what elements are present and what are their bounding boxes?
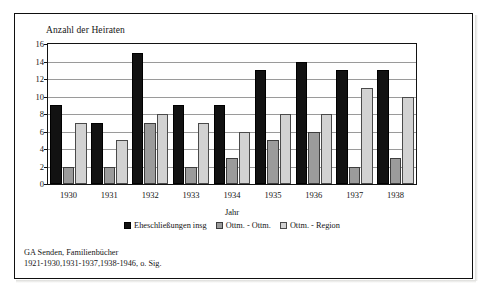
footnote-line-2: 1921-1930,1931-1937,1938-1946, o. Sig. <box>24 259 162 270</box>
bar-group <box>252 44 293 184</box>
bar <box>377 70 389 184</box>
bar-group <box>334 44 375 184</box>
bar <box>226 158 238 184</box>
legend-swatch-icon <box>216 222 223 229</box>
bar <box>157 114 169 184</box>
bar <box>267 140 279 184</box>
bar-series-container <box>48 44 416 184</box>
bar <box>144 123 156 184</box>
bar <box>116 140 128 184</box>
legend-item[interactable]: Eheschließungen insg <box>124 221 207 230</box>
bar <box>402 97 414 185</box>
bar <box>361 88 373 184</box>
source-footnote: GA Senden, Familienbücher 1921-1930,1931… <box>24 248 162 270</box>
bar-group <box>89 44 130 184</box>
legend-item[interactable]: Ottm. - Ottm. <box>216 221 271 230</box>
legend-swatch-icon <box>124 222 131 229</box>
y-axis-tick-label: 14 <box>22 57 44 66</box>
y-axis-tick-label: 2 <box>22 162 44 171</box>
x-axis-tick-label: 1936 <box>305 190 322 200</box>
legend-label: Ottm. - Ottm. <box>226 221 271 230</box>
bar <box>280 114 292 184</box>
bar-group <box>48 44 89 184</box>
x-axis-tick-label: 1931 <box>101 190 118 200</box>
x-axis-title: Jahr <box>47 207 417 217</box>
x-axis-tick-label: 1933 <box>183 190 200 200</box>
footnote-line-1: GA Senden, Familienbücher <box>24 248 162 259</box>
x-axis-tick-labels: 193019311932193319341935193619371938 <box>48 190 416 202</box>
legend-swatch-icon <box>280 222 287 229</box>
bar <box>349 167 361 185</box>
bar <box>214 105 226 184</box>
legend-label: Ottm. - Region <box>290 221 340 230</box>
bar <box>104 167 116 185</box>
chart-legend: Eheschließungen insgOttm. - Ottm.Ottm. -… <box>47 221 417 230</box>
scan-edge-shadow-bottom <box>16 280 476 283</box>
bar <box>296 62 308 185</box>
bar-group <box>375 44 416 184</box>
bar <box>321 114 333 184</box>
bar <box>255 70 267 184</box>
x-axis-tick-label: 1938 <box>387 190 404 200</box>
bar <box>185 167 197 185</box>
bar-group <box>171 44 212 184</box>
bar <box>63 167 75 185</box>
bar <box>239 132 251 185</box>
bar-group <box>293 44 334 184</box>
scan-edge-shadow-right <box>475 15 478 281</box>
bar <box>336 70 348 184</box>
y-axis-tick-label: 16 <box>22 40 44 49</box>
bar <box>198 123 210 184</box>
bar <box>91 123 103 184</box>
x-axis-tick-label: 1934 <box>224 190 241 200</box>
bar <box>390 158 402 184</box>
y-axis-tick-label: 12 <box>22 75 44 84</box>
x-axis-tick-label: 1937 <box>346 190 363 200</box>
bar <box>132 53 144 184</box>
bar-group <box>212 44 253 184</box>
bar <box>75 123 87 184</box>
legend-label: Eheschließungen insg <box>134 221 207 230</box>
bar <box>50 105 62 184</box>
bar-group <box>130 44 171 184</box>
y-axis-tick-label: 4 <box>22 145 44 154</box>
x-axis-tick-label: 1932 <box>142 190 159 200</box>
y-axis-tick-label: 8 <box>22 110 44 119</box>
y-axis-tick-label: 6 <box>22 127 44 136</box>
y-axis-title: Anzahl der Heiraten <box>46 25 125 35</box>
y-axis-tick-label: 10 <box>22 92 44 101</box>
y-axis-tick-label: 0 <box>22 180 44 189</box>
y-axis-tick-labels: 0246810121416 <box>20 43 44 185</box>
legend-item[interactable]: Ottm. - Region <box>280 221 340 230</box>
x-axis-tick-label: 1935 <box>264 190 281 200</box>
x-axis-tick-label: 1930 <box>60 190 77 200</box>
bar <box>308 132 320 185</box>
bar <box>173 105 185 184</box>
